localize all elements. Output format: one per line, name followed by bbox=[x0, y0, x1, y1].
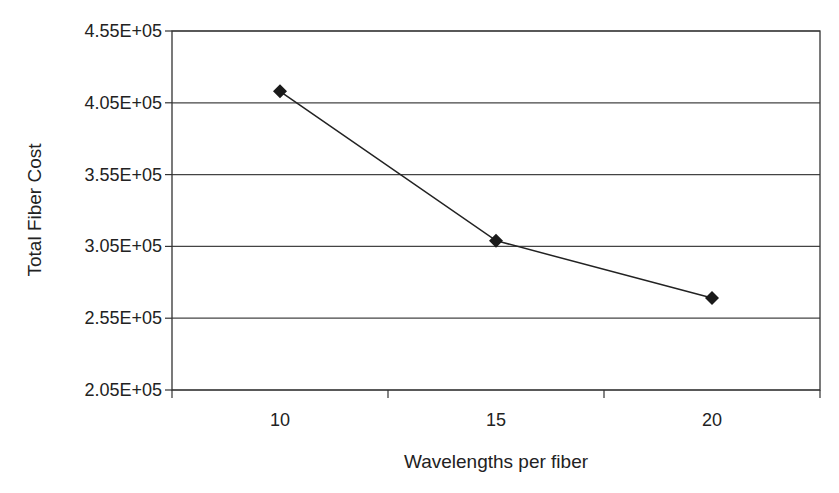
y-axis-title: Total Fiber Cost bbox=[24, 143, 45, 277]
series-markers bbox=[273, 84, 719, 305]
y-tick-label: 3.05E+05 bbox=[84, 236, 162, 256]
diamond-marker-icon bbox=[489, 234, 503, 248]
y-axis-ticks: 2.05E+052.55E+053.05E+053.55E+054.05E+05… bbox=[84, 21, 172, 400]
y-tick-label: 3.55E+05 bbox=[84, 165, 162, 185]
x-tick-label: 20 bbox=[702, 410, 722, 430]
x-tick-label: 10 bbox=[270, 410, 290, 430]
series-line bbox=[280, 91, 712, 298]
y-tick-label: 4.55E+05 bbox=[84, 21, 162, 41]
y-tick-label: 2.05E+05 bbox=[84, 380, 162, 400]
diamond-marker-icon bbox=[705, 291, 719, 305]
line-chart: 2.05E+052.55E+053.05E+053.55E+054.05E+05… bbox=[0, 0, 839, 493]
diamond-marker-icon bbox=[273, 84, 287, 98]
y-tick-label: 2.55E+05 bbox=[84, 308, 162, 328]
x-tick-label: 15 bbox=[486, 410, 506, 430]
x-axis-ticks: 101520 bbox=[172, 390, 820, 430]
x-axis-title: Wavelengths per fiber bbox=[404, 451, 589, 472]
plot-area-frame bbox=[172, 31, 820, 390]
y-tick-label: 4.05E+05 bbox=[84, 93, 162, 113]
gridlines bbox=[172, 31, 820, 390]
